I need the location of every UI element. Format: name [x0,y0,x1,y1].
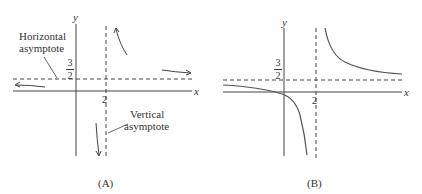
ha-pointer-a [44,57,57,78]
ha-annotation-line1: Horizontal [19,30,66,42]
arrowhead-left-a [15,82,20,87]
ha-value-b: 3 2 [274,58,282,81]
ha-value-numerator-a: 3 [66,58,74,68]
caption-b: (B) [307,177,322,189]
ha-value-denominator-a: 2 [66,71,74,81]
panel-b [223,28,402,158]
ha-value-denominator-b: 2 [274,71,282,81]
ha-value-a: 3 2 [66,58,74,81]
ha-annotation-line2: asymptote [19,42,64,54]
va-value-b: 2 [312,95,317,107]
va-annotation-line2: asymptote [124,120,169,132]
arrow-bottom-a [96,123,99,155]
y-axis-label-b: y [282,16,287,28]
va-value-a: 2 [102,94,107,106]
arrow-top-a [116,29,127,55]
curve-left-branch-b [223,85,307,155]
curve-right-branch-b [325,28,402,74]
x-axis-label-a: x [194,85,199,97]
va-annotation-line1: Vertical [130,108,164,120]
arrow-left-a [16,85,45,87]
x-axis-label-b: x [404,86,409,98]
y-axis-label-a: y [73,11,78,23]
caption-a: (A) [98,177,113,189]
ha-value-numerator-b: 3 [274,58,282,68]
